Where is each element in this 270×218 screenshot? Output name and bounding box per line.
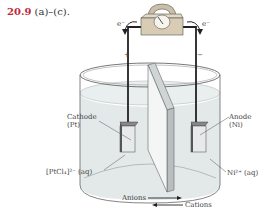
left-solution-label: [PtCl₄]²⁻ (aq) bbox=[46, 168, 92, 176]
anode-electrode bbox=[191, 122, 208, 152]
anode-label: Anode (Ni) bbox=[229, 113, 251, 129]
positive-terminal-label: + bbox=[124, 51, 130, 59]
cations-label: Cations bbox=[185, 201, 212, 209]
right-solution-label: Ni²⁺ (aq) bbox=[227, 169, 258, 177]
voltmeter-icon bbox=[141, 4, 183, 35]
electrolytic-cell-diagram bbox=[0, 0, 270, 218]
cathode-label: Cathode (Pt) bbox=[67, 113, 97, 129]
anions-label: Anions bbox=[122, 194, 146, 202]
electron-label-left: e⁻ bbox=[117, 20, 125, 28]
negative-terminal-label: − bbox=[197, 51, 203, 59]
electron-label-right: e⁻ bbox=[202, 20, 210, 28]
